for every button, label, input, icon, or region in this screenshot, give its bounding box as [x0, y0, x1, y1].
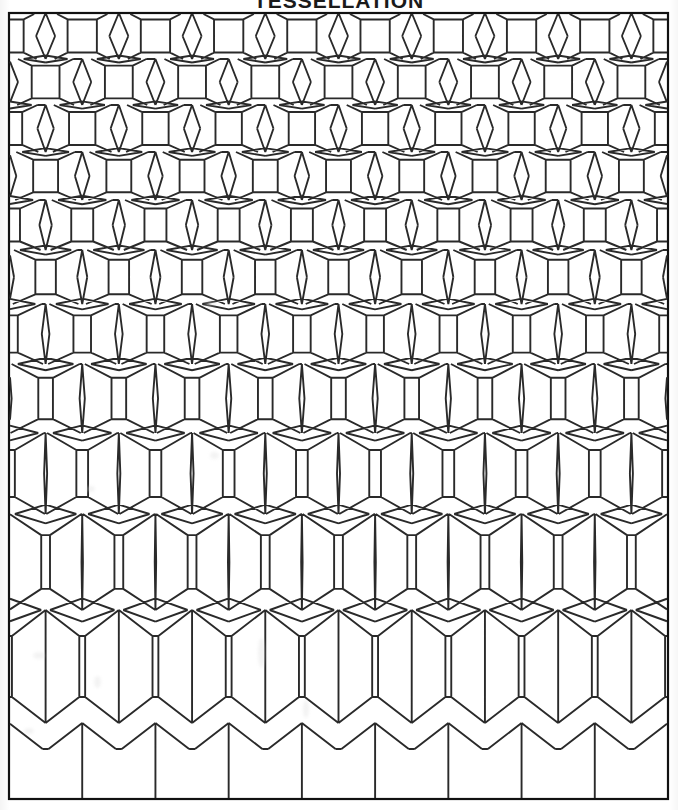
- scan-blotch: [24, 728, 34, 734]
- scan-blotch: [258, 638, 265, 668]
- tessellation-lines: [10, 14, 667, 798]
- scanned-page: TESSELLATION: [0, 0, 678, 810]
- scan-blotch: [205, 300, 216, 307]
- tessellation-path: [10, 14, 667, 723]
- scan-blotch: [210, 452, 219, 459]
- scan-blotch: [303, 700, 309, 718]
- scan-blotch: [94, 676, 101, 688]
- tessellation-svg: [0, 0, 678, 810]
- tessellation-plate: [0, 0, 678, 810]
- scan-blotch: [86, 486, 95, 492]
- scan-blotch: [33, 652, 45, 659]
- tessellation-bottom-row: [10, 723, 667, 798]
